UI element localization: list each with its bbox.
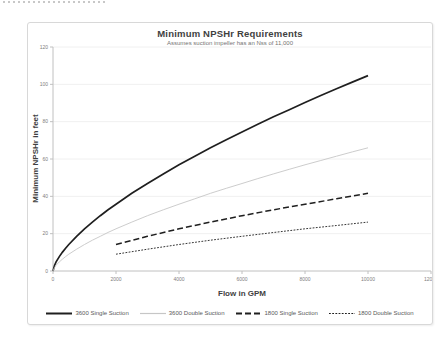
- y-tick-label: 0: [45, 268, 48, 274]
- x-axis: 020004000600080001000012000: [52, 271, 432, 282]
- y-tick-label: 60: [42, 156, 48, 162]
- y-tick-label: 80: [42, 118, 48, 124]
- legend-label: 1800 Single Suction: [265, 310, 318, 316]
- legend-swatch-dashed-line: [236, 311, 262, 316]
- legend-item-1800-double-suction: 1800 Double Suction: [329, 310, 414, 316]
- x-tick-label: 6000: [236, 276, 247, 282]
- gridlines: [53, 47, 431, 234]
- legend-label: 3600 Single Suction: [75, 310, 128, 316]
- legend: 3600 Single Suction3600 Double Suction18…: [28, 310, 432, 316]
- y-axis-title: Minimum NPSHr in feet: [31, 89, 40, 229]
- x-tick-label: 12000: [424, 276, 432, 282]
- legend-label: 1800 Double Suction: [358, 310, 414, 316]
- x-axis-title: Flow in GPM: [53, 289, 431, 298]
- y-tick-label: 20: [42, 230, 48, 236]
- y-tick-label: 100: [40, 81, 49, 87]
- y-tick-label: 40: [42, 193, 48, 199]
- y-tick-label: 120: [40, 44, 49, 50]
- legend-item-1800-single-suction: 1800 Single Suction: [236, 310, 318, 316]
- legend-item-3600-single-suction: 3600 Single Suction: [46, 310, 128, 316]
- legend-label: 3600 Double Suction: [169, 310, 225, 316]
- legend-item-3600-double-suction: 3600 Double Suction: [140, 310, 225, 316]
- x-tick-label: 10000: [361, 276, 375, 282]
- cropped-text-artifact: [3, 1, 107, 3]
- x-tick-label: 2000: [110, 276, 121, 282]
- x-tick-label: 8000: [299, 276, 310, 282]
- legend-swatch-solid-line: [46, 311, 72, 316]
- plot-svg: 0200040006000800010000120000204060801001…: [28, 23, 432, 324]
- series-line-1800-single-suction: [116, 193, 368, 244]
- series-line-3600-single-suction: [53, 76, 368, 271]
- x-tick-label: 0: [52, 276, 55, 282]
- series-line-1800-double-suction: [116, 222, 368, 254]
- legend-swatch-solid-line: [140, 311, 166, 316]
- y-axis: 020406080100120: [40, 44, 53, 274]
- x-tick-label: 4000: [173, 276, 184, 282]
- series-line-3600-double-suction: [53, 148, 368, 271]
- legend-swatch-dotted-line: [329, 311, 355, 316]
- chart-container: Minimum NPSHr Requirements Assumes sucti…: [27, 22, 433, 325]
